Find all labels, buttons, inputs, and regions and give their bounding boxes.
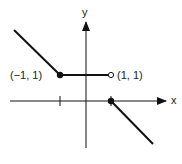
piecewise-graph: y x (−1, 1) (1, 1) [0, 0, 182, 164]
filled-point-neg1-1 [57, 72, 63, 78]
y-axis-label: y [82, 6, 88, 18]
right-ray [111, 101, 153, 144]
x-axis-label: x [171, 94, 177, 106]
open-point-1-1 [108, 72, 113, 77]
filled-point-1-0 [108, 98, 114, 104]
point-label-1-1: (1, 1) [117, 69, 143, 81]
point-label-neg1-1: (−1, 1) [10, 69, 42, 81]
